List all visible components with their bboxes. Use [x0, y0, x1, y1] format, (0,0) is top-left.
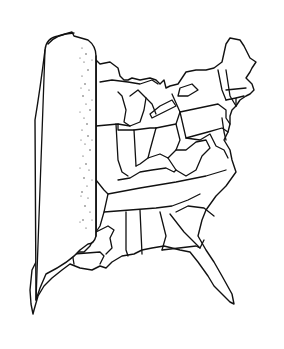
rolled-map-illustration: [0, 0, 284, 349]
